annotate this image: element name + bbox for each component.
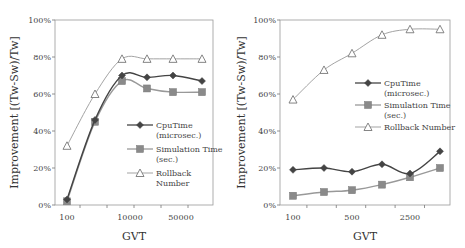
data-point-diamond [349, 168, 356, 175]
data-point-diamond [199, 78, 206, 85]
x-axis-title: GVT [122, 230, 147, 243]
y-tick-label: 0% [38, 201, 51, 210]
y-tick-label: 20% [258, 164, 276, 173]
data-point-square [144, 85, 151, 92]
legend-label: Simulation Time [384, 101, 451, 110]
data-point-diamond [170, 72, 177, 79]
legend-marker-diamond [137, 122, 144, 129]
y-tick-label: 60% [33, 90, 51, 99]
data-point-square [379, 181, 386, 188]
y-tick-label: 40% [33, 127, 51, 136]
y-tick-label: 60% [258, 90, 276, 99]
data-point-square [437, 165, 444, 172]
data-point-triangle [348, 49, 356, 57]
x-tick-label: 500 [344, 213, 359, 222]
legend: CpuTime(microsec.)Simulation Time(sec.)R… [355, 79, 455, 132]
y-tick-label: 100% [28, 16, 51, 25]
data-point-triangle [91, 90, 99, 98]
legend-label: CpuTime [384, 79, 421, 88]
y-tick-label: 20% [33, 164, 51, 173]
y-axis-title: Improvement [(Tw-Sw)/Tw] [8, 36, 21, 189]
y-tick-label: 80% [33, 53, 51, 62]
data-point-triangle [378, 31, 386, 39]
y-tick-label: 80% [258, 53, 276, 62]
legend-marker-square [137, 146, 144, 153]
x-tick-label: 100 [285, 213, 300, 222]
legend-label: (microsec.) [384, 89, 429, 98]
legend-label: Simulation Time [156, 145, 223, 154]
legend-label: Number [156, 179, 190, 188]
chart-1: 0%20%40%60%80%100%1001000050000GVTImprov… [8, 16, 223, 243]
data-point-square [321, 189, 328, 196]
data-point-square [170, 89, 177, 96]
plot-frame [280, 20, 450, 205]
x-tick-label: 50000 [168, 213, 193, 222]
chart-2: 0%20%40%60%80%100%1005002500GVTImproveme… [235, 16, 455, 243]
y-axis-title: Improvement [(Tw-Sw)/Tw] [235, 36, 248, 189]
legend-label: CpuTime [156, 121, 193, 130]
y-tick-label: 100% [253, 16, 276, 25]
legend-label: (microsec.) [156, 131, 201, 140]
data-point-diamond [144, 74, 151, 81]
series-line-diamond [293, 151, 440, 173]
data-point-square [199, 89, 206, 96]
legend-label: (sec.) [384, 111, 406, 120]
data-point-triangle [118, 55, 126, 63]
data-point-diamond [379, 161, 386, 168]
data-point-diamond [321, 165, 328, 172]
data-point-square [349, 187, 356, 194]
x-tick-label: 2500 [400, 213, 420, 222]
legend-marker-square [365, 102, 372, 109]
legend-marker-diamond [365, 80, 372, 87]
legend-label: Rollback Number [384, 123, 455, 132]
data-point-diamond [290, 166, 297, 173]
data-point-triangle [63, 142, 71, 150]
data-point-square [290, 192, 297, 199]
x-tick-label: 100 [59, 213, 74, 222]
y-tick-label: 0% [263, 201, 276, 210]
x-tick-label: 10000 [117, 213, 142, 222]
x-axis-title: GVT [353, 230, 378, 243]
data-point-triangle [320, 66, 328, 74]
legend-label: (sec.) [156, 155, 178, 164]
series-line-square [293, 168, 440, 196]
legend-label: Rollback [156, 169, 191, 178]
y-tick-label: 40% [258, 127, 276, 136]
legend: CpuTime(microsec.)Simulation Time(sec.)R… [127, 121, 223, 188]
chart-canvas: 0%20%40%60%80%100%1001000050000GVTImprov… [0, 0, 465, 248]
